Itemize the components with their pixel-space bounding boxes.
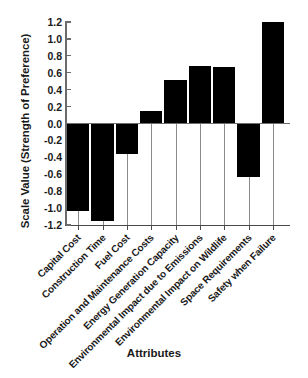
bar-stem bbox=[78, 211, 79, 225]
y-tick-label: -1.0 bbox=[22, 202, 62, 214]
x-tick-mark bbox=[200, 225, 201, 230]
y-tick-label: 0.2 bbox=[22, 101, 62, 113]
x-tick-mark bbox=[151, 225, 152, 230]
x-tick-mark bbox=[249, 225, 250, 230]
bar[interactable] bbox=[213, 67, 235, 124]
bar[interactable] bbox=[140, 111, 162, 124]
bar[interactable] bbox=[237, 124, 259, 177]
y-tick-label: -0.4 bbox=[22, 151, 62, 163]
y-tick-label: -0.6 bbox=[22, 168, 62, 180]
bar-stem bbox=[273, 124, 274, 226]
bar[interactable] bbox=[164, 80, 186, 123]
x-axis-line bbox=[65, 225, 290, 226]
x-tick-mark bbox=[127, 225, 128, 230]
bar[interactable] bbox=[116, 124, 138, 154]
y-tick-label: 0.6 bbox=[22, 67, 62, 79]
bar-stem bbox=[200, 124, 201, 226]
x-tick-mark bbox=[224, 225, 225, 230]
x-tick-mark bbox=[103, 225, 104, 230]
y-tick-label: 0.8 bbox=[22, 50, 62, 62]
y-tick-label: 1.2 bbox=[22, 16, 62, 28]
y-tick-label: 0.0 bbox=[22, 118, 62, 130]
y-tick-label: -1.2 bbox=[22, 219, 62, 231]
bar-stem bbox=[249, 177, 250, 225]
bar-stem bbox=[176, 124, 177, 226]
zero-baseline bbox=[65, 123, 290, 125]
y-tick-label: 1.0 bbox=[22, 33, 62, 45]
bar-stem bbox=[224, 124, 225, 226]
x-tick-mark bbox=[78, 225, 79, 230]
bar[interactable] bbox=[91, 124, 113, 221]
x-tick-mark bbox=[176, 225, 177, 230]
x-tick-mark bbox=[273, 225, 274, 230]
y-tick-label: 0.4 bbox=[22, 84, 62, 96]
bar[interactable] bbox=[189, 66, 211, 124]
y-tick-label: -0.8 bbox=[22, 185, 62, 197]
bar-stem bbox=[151, 124, 152, 226]
chart-figure: Scale Value (Strength of Preference) 1.2… bbox=[0, 0, 308, 378]
bar[interactable] bbox=[262, 22, 284, 124]
bar-stem bbox=[127, 154, 128, 225]
y-tick-label: -0.2 bbox=[22, 134, 62, 146]
x-axis-title: Attributes bbox=[0, 347, 308, 359]
bar[interactable] bbox=[67, 124, 89, 211]
